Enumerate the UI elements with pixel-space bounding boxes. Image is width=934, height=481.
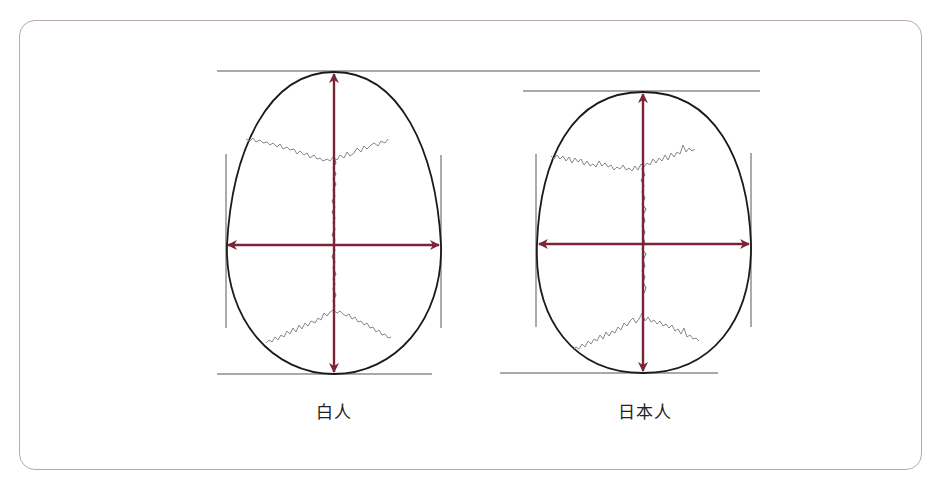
coronal-suture xyxy=(246,138,388,161)
label-japanese: 日本人 xyxy=(618,398,672,423)
lambdoid-suture xyxy=(573,313,699,350)
skull-japanese xyxy=(500,91,760,373)
lambdoid-suture xyxy=(266,310,391,343)
skull-caucasian xyxy=(217,71,760,374)
skull-comparison-diagram xyxy=(0,0,934,481)
coronal-suture xyxy=(551,145,695,171)
label-caucasian: 白人 xyxy=(316,398,352,423)
